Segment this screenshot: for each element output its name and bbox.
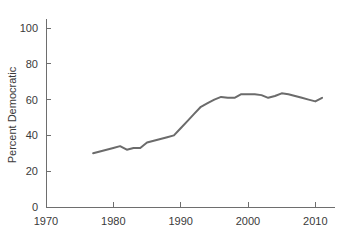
x-tick-label: 1980 [101, 215, 125, 227]
x-tick-label: 1990 [168, 215, 192, 227]
x-tick-label: 2010 [303, 215, 327, 227]
y-axis-tick-labels: 020406080100 [20, 22, 38, 213]
x-axis-tick-labels: 19701980199020002010 [34, 215, 328, 227]
y-tick-label: 20 [26, 165, 38, 177]
x-tick-label: 2000 [236, 215, 260, 227]
y-tick-label: 80 [26, 58, 38, 70]
x-tick-label: 1970 [34, 215, 58, 227]
plot-axes [46, 19, 335, 207]
y-tick-label: 0 [32, 201, 38, 213]
y-tick-label: 100 [20, 22, 38, 34]
y-axis-ticks [46, 28, 51, 207]
y-axis-title: Percent Democratic [6, 66, 18, 163]
line-chart: 020406080100 19701980199020002010 Percen… [0, 0, 347, 241]
chart-container: 020406080100 19701980199020002010 Percen… [0, 0, 347, 241]
y-tick-label: 40 [26, 129, 38, 141]
series-line-percent-democratic [93, 93, 322, 153]
x-axis-ticks [46, 202, 315, 207]
axis-lines [46, 19, 335, 207]
y-tick-label: 60 [26, 94, 38, 106]
